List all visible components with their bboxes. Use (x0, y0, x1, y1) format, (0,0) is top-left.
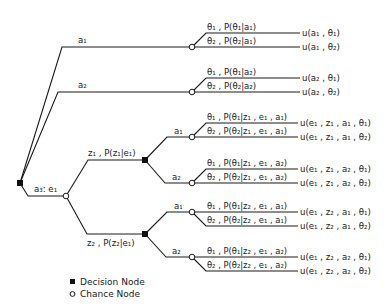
label-z2-a2-theta1: θ₁ , P(θ₁|z₂ , e₁ , a₂) (207, 246, 287, 256)
label-a3: a₃: e₁ (34, 184, 57, 194)
utility-z2-a1-theta1: u(e₁ , z₂ , a₁ , θ₁) (300, 207, 371, 217)
label-z2-a2: a₂ (172, 246, 181, 256)
chance-node-z1-a2 (189, 180, 195, 186)
label-z1-a2-theta1: θ₁ , P(θ₁|z₁ , e₁ , a₂) (207, 158, 287, 168)
label-z1-a1-theta1: θ₁ , P(θ₁|z₁ , e₁ , a₁) (207, 112, 287, 122)
root-edges (20, 47, 192, 196)
edge-z2-a1 (145, 212, 192, 234)
edge-z1-a1 (145, 137, 192, 160)
label-a2-theta1: θ₁ , P(θ₁|a₂) (207, 67, 256, 77)
decision-tree-diagram: a₁ θ₁ , P(θ₁|a₁) θ₂ , P(θ₂|a₁) u(a₁ , θ₁… (0, 0, 385, 307)
label-z1-a1: a₁ (174, 126, 183, 136)
utility-a2-theta1: u(a₂ , θ₁) (302, 73, 340, 83)
utility-z1-a1-theta1: u(e₁ , z₁ , a₁ , θ₁) (300, 118, 371, 128)
utility-z1-a1-theta2: u(e₁ , z₁ , a₁ , θ₂) (300, 132, 371, 142)
legend-decision-node-icon (70, 279, 75, 284)
label-a1-theta1: θ₁ , P(θ₁|a₁) (207, 22, 256, 32)
utility-z1-a2-theta2: u(e₁ , z₁ , a₂ , θ₂) (300, 178, 371, 188)
label-a2-theta2: θ₂ , P(θ₂|a₂) (207, 81, 256, 91)
edge-z2 (66, 196, 145, 234)
branch-z2: a₁ a₂ θ₁ , P(θ₁|z₂ , e₁ , a₁) θ₂ , P(θ₂|… (142, 201, 371, 276)
label-z1-a2: a₂ (172, 172, 181, 182)
utility-a2-theta2: u(a₂ , θ₂) (302, 87, 340, 97)
chance-node-e1 (63, 193, 69, 199)
chance-node-a1 (189, 44, 195, 50)
label-z2-a1-theta1: θ₁ , P(θ₁|z₂ , e₁ , a₁) (207, 201, 287, 211)
chance-node-a2 (189, 89, 195, 95)
utility-z2-a1-theta2: u(e₁ , z₂ , a₁ , θ₂) (300, 221, 371, 231)
label-a1: a₁ (78, 35, 87, 45)
edge-z1 (66, 160, 145, 196)
label-z2-a2-theta2: θ₂ , P(θ₂|z₂ , e₁ , a₂) (207, 260, 287, 270)
legend-decision-node-label: Decision Node (80, 277, 145, 287)
edge-z1-a2 (145, 160, 192, 183)
label-z2-a1: a₁ (174, 201, 183, 211)
decision-node-root (17, 180, 23, 186)
label-a2: a₂ (78, 80, 87, 90)
chance-node-z2-a2 (189, 254, 195, 260)
decision-node-z2 (142, 231, 148, 237)
legend: Decision Node Chance Node (70, 277, 145, 299)
label-z2-a1-theta2: θ₂ , P(θ₂|z₂ , e₁ , a₁) (207, 215, 287, 225)
chance-node-z1-a1 (189, 134, 195, 140)
edge-z2-a2 (145, 234, 192, 257)
utility-a1-theta1: u(a₁ , θ₁) (302, 28, 340, 38)
legend-chance-node-label: Chance Node (80, 289, 141, 299)
decision-node-z1 (142, 157, 148, 163)
utility-z2-a2-theta1: u(e₁ , z₂ , a₂ , θ₁) (300, 252, 371, 262)
utility-z1-a2-theta1: u(e₁ , z₁ , a₂ , θ₁) (300, 164, 371, 174)
edge-a1 (20, 47, 192, 183)
label-z2: z₂ , P(z₂|e₁) (87, 238, 135, 248)
utility-a1-theta2: u(a₁ , θ₂) (302, 42, 340, 52)
branch-a3: a₃: e₁ z₁ , P(z₁|e₁) z₂ , P(z₂|e₁) (34, 148, 145, 248)
legend-chance-node-icon (70, 292, 75, 297)
label-a1-theta2: θ₂ , P(θ₂|a₁) (207, 36, 256, 46)
branch-z1: a₁ a₂ θ₁ , P(θ₁|z₁ , e₁ , a₁) θ₂ , P(θ₂|… (142, 112, 371, 188)
label-z1-a2-theta2: θ₂ , P(θ₂|z₁ , e₁ , a₂) (207, 172, 287, 182)
label-z1: z₁ , P(z₁|e₁) (88, 148, 136, 158)
chance-node-z2-a1 (189, 209, 195, 215)
utility-z2-a2-theta2: u(e₁ , z₂ , a₂ , θ₂) (300, 266, 371, 276)
label-z1-a1-theta2: θ₂ , P(θ₂|z₁ , e₁ , a₁) (207, 126, 287, 136)
